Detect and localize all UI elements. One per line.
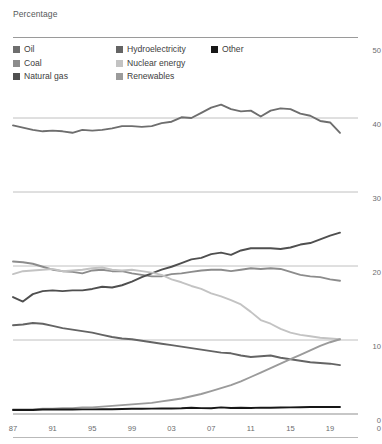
y-axis-tick-20: 20 [361,268,381,277]
y-axis-tick-50: 50 [361,46,381,55]
x-axis-tick-11: 11 [241,424,261,433]
x-axis-tick-91: 91 [43,424,63,433]
y-axis-tick-10: 10 [361,342,381,351]
x-axis-tick-15: 15 [280,424,300,433]
chart-svg [0,0,382,444]
x-axis-tick-87: 87 [3,424,23,433]
x-axis-tick-03: 03 [162,424,182,433]
x-axis-tick-07: 07 [201,424,221,433]
series-line-natural-gas [13,233,340,302]
y-axis-tick-0-baseline: 0 [361,424,381,433]
energy-share-line-chart: Percentage OilCoalNatural gasHydroelectr… [0,0,382,444]
y-axis-tick-40: 40 [361,120,381,129]
y-axis-tick-30: 30 [361,194,381,203]
series-line-renewables [13,339,340,409]
footer-divider [13,437,358,438]
x-axis-tick-95: 95 [82,424,102,433]
series-line-oil [13,105,340,133]
plot-area: 010203040508791959903071115190 [0,0,382,444]
x-axis-tick-19: 19 [320,424,340,433]
x-axis-tick-99: 99 [122,424,142,433]
